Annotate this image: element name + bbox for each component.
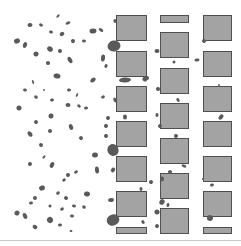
obstacle-square xyxy=(204,16,232,41)
particle xyxy=(48,129,52,133)
obstacle-square xyxy=(117,52,147,77)
obstacle-square xyxy=(117,157,147,182)
obstacle-square xyxy=(161,139,189,164)
obstacle-square xyxy=(117,87,147,112)
obstacle-square xyxy=(204,228,232,234)
particle-flow-diagram xyxy=(0,0,241,246)
bottom-divider-line xyxy=(0,240,241,241)
obstacle-square xyxy=(161,174,189,199)
obstacle-square xyxy=(117,122,147,147)
obstacle-square xyxy=(204,192,232,217)
obstacle-square xyxy=(117,192,147,217)
obstacle-square xyxy=(117,16,147,41)
obstacle-square xyxy=(161,69,189,94)
obstacle-square xyxy=(204,87,232,112)
obstacle-square xyxy=(161,209,189,234)
obstacle-square xyxy=(204,122,232,147)
obstacle-square xyxy=(161,16,189,23)
obstacle-square xyxy=(161,33,189,58)
obstacle-square xyxy=(117,228,147,234)
obstacle-square xyxy=(204,52,232,77)
obstacle-square xyxy=(161,104,189,129)
obstacle-square xyxy=(204,157,232,182)
